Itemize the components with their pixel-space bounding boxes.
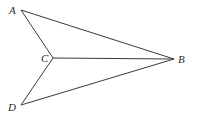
label-a: A <box>8 4 16 16</box>
label-c: C <box>41 52 49 64</box>
segment-cd <box>21 58 53 105</box>
segment-db <box>21 59 174 105</box>
label-d: D <box>7 101 16 113</box>
label-b: B <box>178 53 185 65</box>
segment-ac <box>21 10 53 58</box>
geometry-diagram: A B C D <box>0 0 197 116</box>
segment-cb <box>53 58 174 59</box>
